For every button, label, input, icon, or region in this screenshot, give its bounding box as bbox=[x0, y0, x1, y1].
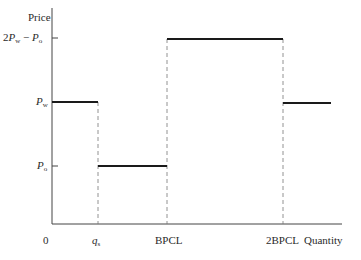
x-axis-title: Quantity bbox=[304, 235, 343, 246]
x-tick-label-origin: 0 bbox=[43, 235, 49, 246]
label-minus: − bbox=[20, 31, 32, 43]
label-q-sub: s bbox=[98, 240, 101, 248]
label-p: P bbox=[36, 95, 43, 107]
y-tick-label-po: Po bbox=[37, 160, 47, 173]
label-p: P bbox=[37, 159, 44, 171]
x-tick-label-bpcl: BPCL bbox=[155, 235, 183, 246]
price-quantity-step-chart bbox=[0, 0, 361, 260]
label-o-sub: o bbox=[39, 37, 43, 45]
x-tick-label-qs: qs bbox=[92, 235, 100, 248]
label-p: P bbox=[32, 31, 39, 43]
y-axis-title: Price bbox=[28, 12, 51, 23]
y-tick-label-pw: Pw bbox=[36, 96, 48, 109]
x-tick-label-2bpcl: 2BPCL bbox=[266, 235, 299, 246]
label-w-sub: w bbox=[43, 101, 48, 109]
label-o-sub: o bbox=[44, 165, 48, 173]
y-tick-label-2pw-po: 2Pw − Po bbox=[3, 32, 42, 45]
